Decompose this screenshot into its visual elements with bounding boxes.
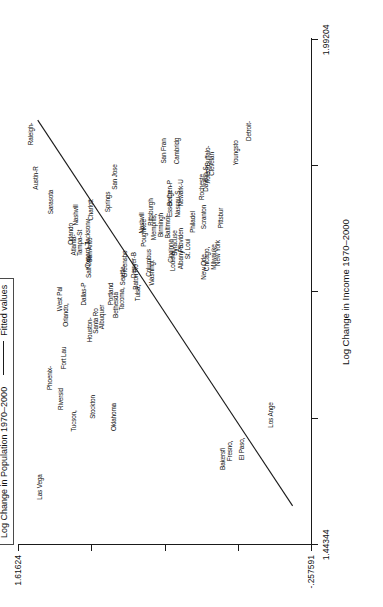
point-label-new-york: New York [215, 240, 222, 266]
point-label-stockton: Stockton [90, 395, 97, 419]
point-label-newark: Newark-U [178, 179, 185, 206]
y-tick-2 [165, 545, 166, 551]
point-label-pittsburgh: Pittsbur [218, 208, 225, 228]
scatter-figure: Las VegaBakersfiFresno,El Paso,Los AngeT… [0, 0, 383, 607]
point-label-fresno: Fresno, [227, 441, 234, 462]
legend: Log Change in Population 1970–2000 Fitte… [0, 278, 14, 545]
point-label-greensboro: Greensbo [122, 251, 129, 278]
point-label-tacoma: Tacoma, [119, 287, 126, 310]
point-label-pittsburgh-2: Pittsburgh [148, 198, 155, 225]
point-label-charlotte: Charlott [88, 199, 95, 220]
point-label-nashville: Nashvill [73, 204, 80, 225]
point-label-portland: Portland [108, 283, 115, 306]
point-label-san-francisco: San Fran [161, 138, 168, 163]
point-label-west-palm: West Pal [57, 287, 64, 311]
x-tick-3 [312, 165, 318, 166]
horizontal-line-icon [3, 341, 4, 375]
point-label-springs: Springs [105, 192, 112, 213]
legend-series-label: Log Change in Population 1970–2000 [0, 387, 9, 538]
point-label-philadelphia: Philadel [190, 211, 197, 233]
point-label-austin: Austin-R [33, 166, 40, 189]
point-label-el-paso: El Paso, [239, 438, 246, 461]
point-label-orlando-2: Orlando, [63, 303, 70, 326]
point-label-albuquerque: Albuquer [99, 305, 106, 329]
point-label-st-louis: St. Loui [185, 239, 192, 259]
point-label-cambridge: Cambridg [174, 138, 181, 165]
x-tick-1 [312, 418, 318, 419]
y-tick-label-0: -.257591 [307, 555, 316, 589]
y-tick-3 [238, 545, 239, 551]
point-label-youngstown: Youngsto [233, 140, 240, 165]
point-label-sarasota: Sarasota [48, 190, 55, 214]
y-tick-0 [18, 545, 19, 551]
point-label-buffalo: Buffalo- [205, 146, 212, 167]
point-label-raleigh: Raleigh- [28, 123, 35, 146]
point-label-denver: Denver-B [131, 252, 138, 278]
point-label-washington: Washingt [149, 260, 156, 285]
point-label-tucson: Tucson, [71, 410, 78, 431]
x-tick-label-0: 1.44344 [322, 530, 331, 561]
point-label-oklahoma-city: Oklahoma [111, 403, 118, 431]
point-label-nashville-2: Nashvill [139, 212, 146, 233]
x-tick-4 [312, 39, 318, 40]
point-label-phoenix: Phoenix- [47, 366, 54, 390]
chart-page: Las VegaBakersfiFresno,El Paso,Los AngeT… [0, 0, 383, 607]
point-label-tulsa: Tulsa, [135, 285, 142, 301]
point-label-riverside: Riversid [58, 388, 65, 410]
point-label-jacksonville: Jacksonv [85, 219, 92, 244]
y-tick-label-4: 1.61624 [14, 555, 23, 586]
plot-area: Las VegaBakersfiFresno,El Paso,Los AngeT… [18, 40, 311, 545]
point-label-dallas: Dallas-P [81, 283, 88, 306]
point-label-scranton: Scranton [201, 205, 208, 229]
point-label-bergen: Bergen-P [167, 180, 174, 206]
point-label-tampa: Tampa-St [77, 230, 84, 256]
x-tick-2 [312, 292, 318, 293]
x-axis-title: Log Change in Income 1970–2000 [340, 219, 351, 365]
point-label-fort-lauderdale: Fort Lau [61, 347, 68, 370]
y-tick-4 [311, 545, 312, 551]
y-tick-1 [91, 545, 92, 551]
x-tick-0 [312, 544, 318, 545]
point-label-detroit: Detroit- [246, 121, 253, 141]
x-tick-label-4: 1.99204 [322, 25, 331, 56]
point-label-orlando: Orlando [68, 223, 75, 245]
legend-fitted-entry: Fitted values [0, 285, 9, 375]
point-label-san-jose: San Jose [112, 164, 119, 189]
legend-fit-label: Fitted values [0, 285, 9, 336]
point-label-los-angeles: Los Ange [268, 402, 275, 427]
point-label-las-vegas: Las Vega [37, 474, 44, 499]
